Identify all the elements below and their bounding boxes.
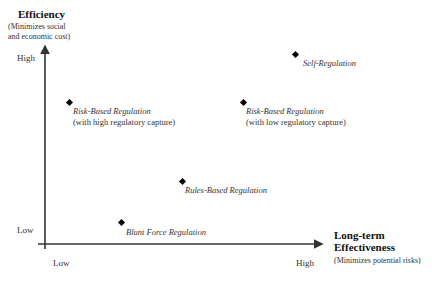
point-risk-high-capture-label: Risk-Based Regulation (with high regulat… [73,106,175,128]
y-axis-low-label: Low [17,225,34,235]
y-axis-subtitle-2: and economic cost) [8,32,70,42]
y-axis-subtitle-1: (Minimizes social [8,22,66,32]
point-self-regulation-label: Self-Regulation [303,58,356,69]
x-axis-title-1: Long-term [334,229,385,241]
x-axis-low-label: Low [53,258,70,268]
point-risk-low-capture-label: Risk-Based Regulation (with low regulato… [246,106,346,128]
x-axis-subtitle: (Minimizes potential risks) [334,256,421,266]
x-axis-title-2: Effectiveness [334,241,395,253]
x-axis-high-label: High [296,258,314,268]
y-axis-high-label: High [17,53,35,63]
point-blunt-force-label: Blunt Force Regulation [126,227,206,238]
point-rules-based-label: Rules-Based Regulation [185,185,267,196]
y-axis-title: Efficiency [18,8,65,20]
